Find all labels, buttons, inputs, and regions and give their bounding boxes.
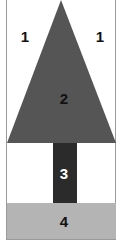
region-label-sky-left: 1 <box>21 29 29 44</box>
region-label-trunk: 3 <box>60 166 68 181</box>
region-label-ground: 4 <box>60 214 68 229</box>
region-label-sky-right: 1 <box>96 29 104 44</box>
region-label-canopy: 2 <box>60 91 68 106</box>
